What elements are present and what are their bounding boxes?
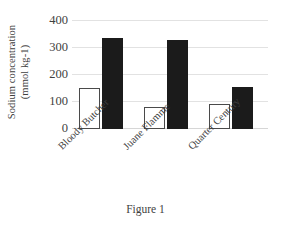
y-tick-300: 300: [34, 41, 68, 54]
y-axis-tick-labels: 400 300 200 100 0: [30, 0, 68, 227]
figure-1-chart: Sodium concentration (mmol kg-1) 400 300…: [0, 0, 291, 227]
y-tick-400: 400: [34, 14, 68, 27]
bar-bloody-butcher-filled: [102, 38, 123, 129]
y-tick-100: 100: [34, 95, 68, 108]
figure-caption: Figure 1: [0, 203, 291, 215]
y-tick-200: 200: [34, 68, 68, 81]
y-axis-title-line-1: Sodium concentration: [6, 2, 19, 142]
x-axis-category-labels: Bloody Butcher Juane Flamme Quarter Cent…: [0, 130, 291, 192]
bar-juane-flamme-filled: [167, 40, 188, 129]
